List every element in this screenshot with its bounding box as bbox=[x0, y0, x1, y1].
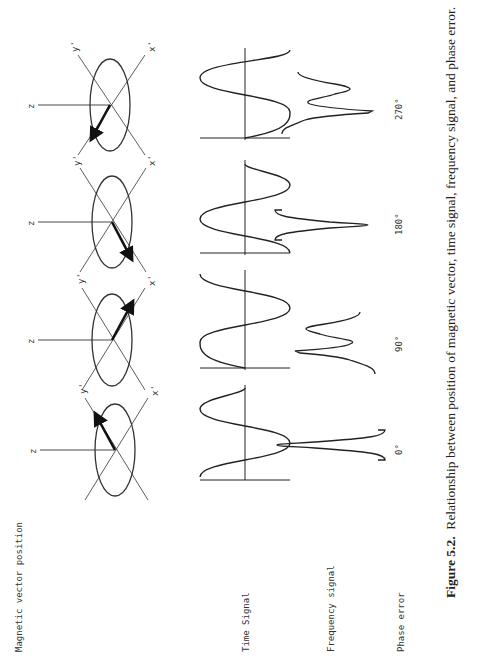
figure-5-2: Magnetic vector position z y' x' z y' x' bbox=[0, 0, 490, 660]
phase-label-90: 90° bbox=[394, 336, 404, 352]
time-signal-0 bbox=[200, 385, 290, 480]
row-label-phase-error: Phase error bbox=[396, 592, 406, 652]
phase-label-270: 270° bbox=[394, 98, 404, 120]
time-signal-180 bbox=[200, 160, 290, 255]
frequency-signal-180 bbox=[275, 210, 368, 240]
y-axis-label-90: y' bbox=[76, 273, 86, 284]
z-axis-label-180: z bbox=[26, 221, 36, 226]
z-axis-label-90: z bbox=[26, 339, 36, 344]
caption-label: Figure 5.2. bbox=[443, 536, 458, 598]
vector-diagram-0 bbox=[40, 398, 148, 500]
frequency-signal-270 bbox=[282, 72, 372, 134]
time-signal-270 bbox=[200, 48, 290, 140]
z-axis-label-270: z bbox=[26, 104, 36, 109]
phase-label-180: 180° bbox=[394, 213, 404, 235]
x-axis-label-90: x' bbox=[147, 275, 157, 286]
caption-text: Relationship between position of magneti… bbox=[443, 7, 458, 530]
y-axis-label-270: y' bbox=[70, 41, 80, 52]
x-axis-label-270: x' bbox=[147, 41, 157, 52]
x-axis-label-180: x' bbox=[147, 155, 157, 166]
row-label-vector: Magnetic vector position bbox=[14, 522, 24, 652]
time-signal-90 bbox=[200, 270, 290, 370]
row-label-frequency-signal: Frequency signal bbox=[326, 565, 336, 652]
y-axis-label-180: y' bbox=[72, 155, 82, 166]
z-axis-label-0: z bbox=[28, 449, 38, 454]
x-axis-label-0: x' bbox=[150, 385, 160, 396]
vector-diagram-90 bbox=[38, 288, 145, 390]
frequency-signal-90 bbox=[295, 312, 375, 374]
row-label-time-signal: Time Signal bbox=[241, 592, 251, 652]
figure-caption: Figure 5.2. Relationship between positio… bbox=[443, 0, 459, 598]
figure-canvas: Magnetic vector position z y' x' z y' x' bbox=[0, 0, 490, 660]
phase-label-0: 0° bbox=[394, 444, 404, 455]
vector-diagram-270 bbox=[38, 55, 145, 155]
vector-diagram-180 bbox=[38, 168, 146, 272]
frequency-signal-0 bbox=[277, 430, 385, 460]
